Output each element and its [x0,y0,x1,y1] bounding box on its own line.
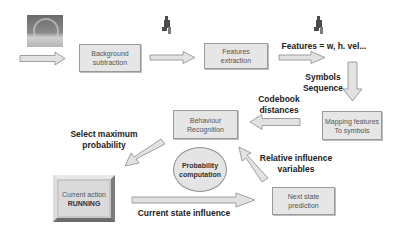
person-silhouette-icon [162,16,171,34]
box-label: Behaviour [187,116,224,125]
label-line: Select maximum [66,129,142,140]
ellipse-label: computation [179,170,221,179]
label-line: Symbols [300,72,346,83]
arrow-bg-to-features [150,52,195,64]
features-extraction-box: Featuresextraction [204,43,268,69]
next-state-prediction-box: Next stateprediction [272,187,335,215]
current-action-value: RUNNING [68,199,101,208]
arrow-codebook-left [250,115,300,130]
label-line: Relative influence [254,153,338,164]
arrow-current-state [132,193,255,207]
probability-computation-ellipse: Probabilitycomputation [173,147,227,192]
box-label: Background [91,49,128,58]
relative-influence-label: Relative influence variables [254,153,338,175]
box-label: Next state [288,192,320,201]
label-line: distances [254,105,304,116]
box-label: Features [221,47,251,56]
current-action-label: Current action [62,190,106,199]
box-label: prediction [288,201,320,210]
select-max-probability-label: Select maximum probability [66,129,142,151]
box-label: Mapping features [325,117,379,126]
box-label: extraction [221,56,251,65]
mapping-features-box: Mapping featuresTo symbols [322,111,382,140]
box-label: To symbols [325,126,379,135]
label-line: probability [66,140,142,151]
label-line: variables [254,164,338,175]
codebook-distances-label: Codebook distances [254,94,304,116]
ellipse-label: Probability [179,161,221,170]
current-action-box: Current action RUNNING [53,175,115,222]
behaviour-recognition-box: BehaviourRecognition [173,110,238,139]
symbols-sequence-label: Symbols Sequence [300,72,346,94]
person-silhouette-icon [314,16,323,34]
label-line: Sequence [300,83,346,94]
arrow-features-out [279,52,325,64]
features-label: Features = w, h. vel... [276,41,372,52]
background-subtraction-box: Backgroundsubtraction [79,44,141,72]
box-label: Recognition [187,125,224,134]
arrow-input-to-bg [20,52,65,65]
box-label: subtraction [91,58,128,67]
label-line: Codebook [254,94,304,105]
current-state-influence-label: Current state influence [132,208,236,219]
